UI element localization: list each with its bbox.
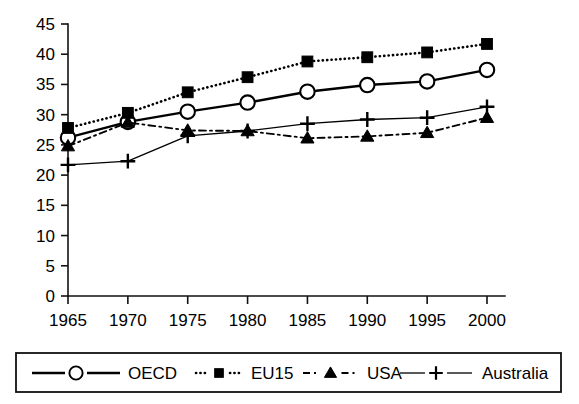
data-point-marker [215, 369, 224, 378]
data-point-marker [182, 87, 193, 98]
data-point-marker [242, 72, 253, 83]
data-point-marker [120, 154, 135, 169]
x-tick-label: 1990 [348, 311, 386, 330]
y-tick-label: 45 [36, 15, 55, 34]
x-axis: 19651970197519801985199019952000 [49, 296, 506, 330]
legend-label: Australia [482, 364, 549, 383]
data-point-marker [61, 157, 76, 172]
y-axis: 051015202530354045 [36, 15, 68, 306]
data-point-marker [480, 63, 494, 77]
data-point-marker [300, 116, 315, 131]
chart-legend: OECDEU15USAAustralia [16, 353, 561, 392]
legend-label: USA [367, 364, 403, 383]
legend-label: OECD [128, 364, 177, 383]
y-tick-label: 5 [46, 257, 55, 276]
data-point-marker [181, 104, 195, 118]
chart-figure: 051015202530354045 196519701975198019851… [0, 0, 579, 404]
x-tick-label: 1975 [169, 311, 207, 330]
data-point-marker [362, 52, 373, 63]
data-point-marker [422, 47, 433, 58]
data-point-marker [300, 84, 314, 98]
legend-label: EU15 [251, 364, 294, 383]
x-tick-label: 1985 [289, 311, 327, 330]
y-tick-label: 20 [36, 166, 55, 185]
data-point-marker [69, 366, 82, 379]
x-tick-label: 1970 [109, 311, 147, 330]
x-tick-label: 1965 [49, 311, 87, 330]
data-point-marker [302, 56, 313, 67]
y-tick-label: 25 [36, 136, 55, 155]
x-tick-label: 1995 [408, 311, 446, 330]
x-axis-tick-labels: 19651970197519801985199019952000 [49, 311, 506, 330]
data-point-marker [482, 39, 493, 50]
data-point-marker [63, 123, 74, 134]
data-point-marker [420, 74, 434, 88]
data-series-layer [61, 39, 495, 173]
x-tick-label: 1980 [229, 311, 267, 330]
y-tick-label: 40 [36, 45, 55, 64]
data-point-marker [240, 95, 254, 109]
y-tick-label: 30 [36, 106, 55, 125]
x-axis-tick-marks [68, 296, 487, 304]
y-tick-label: 0 [46, 287, 55, 306]
y-tick-label: 15 [36, 196, 55, 215]
x-tick-label: 2000 [468, 311, 506, 330]
data-point-marker [360, 78, 374, 92]
data-point-marker [480, 99, 495, 114]
data-point-marker [420, 110, 435, 125]
y-axis-tick-labels: 051015202530354045 [36, 15, 55, 306]
chart-canvas: 051015202530354045 196519701975198019851… [0, 0, 579, 404]
y-tick-label: 35 [36, 75, 55, 94]
y-tick-label: 10 [36, 227, 55, 246]
data-point-marker [360, 112, 375, 127]
